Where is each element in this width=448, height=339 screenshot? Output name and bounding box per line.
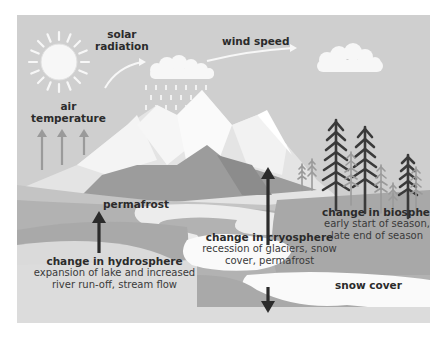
biosphere-title: change in biosphere xyxy=(322,206,430,218)
hydrosphere-label: change in hydrosphere expansion of lake … xyxy=(27,255,202,290)
snow-cover-label: snow cover xyxy=(335,279,402,291)
climate-diagram: solar radiation wind speed air temperatu… xyxy=(17,15,430,323)
sun-icon xyxy=(29,32,89,92)
wind-speed-label: wind speed xyxy=(222,35,289,47)
hydrosphere-title: change in hydrosphere xyxy=(27,255,202,267)
solar-radiation-label: solar radiation xyxy=(95,28,149,52)
permafrost-label: permafrost xyxy=(103,198,169,210)
air-temperature-label: air temperature xyxy=(31,100,106,124)
biosphere-label: change in biosphere early start of seaso… xyxy=(322,206,430,241)
